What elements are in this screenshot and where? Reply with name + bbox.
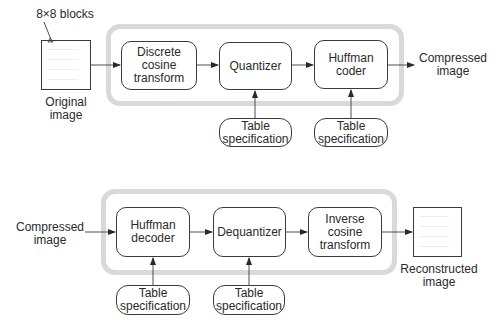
connector-arrows xyxy=(0,0,498,330)
